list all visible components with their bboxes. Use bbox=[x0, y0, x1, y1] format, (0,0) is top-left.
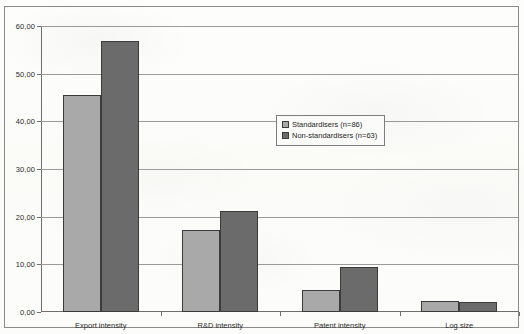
y-axis-tick-label: 0,00 bbox=[20, 308, 35, 317]
y-axis-tick bbox=[37, 312, 41, 313]
bar bbox=[459, 302, 497, 312]
y-axis-tick-label: 20,00 bbox=[16, 212, 35, 221]
legend-swatch-icon bbox=[282, 121, 289, 128]
y-axis-tick bbox=[37, 264, 41, 265]
bar bbox=[182, 230, 220, 312]
y-axis-tick-label: 10,00 bbox=[16, 260, 35, 269]
x-axis-tick bbox=[519, 312, 520, 316]
y-axis-tick bbox=[37, 121, 41, 122]
bar bbox=[340, 267, 378, 312]
y-axis-tick-label: 50,00 bbox=[16, 69, 35, 78]
chart-screenshot: 0,0010,0020,0030,0040,0050,0060,00 Expor… bbox=[0, 0, 524, 334]
y-axis-tick-label: 60,00 bbox=[16, 22, 35, 31]
gridline bbox=[41, 26, 519, 27]
x-axis-tick bbox=[400, 312, 401, 316]
x-axis-tick-label: Patent intensity bbox=[314, 321, 365, 330]
x-axis-tick bbox=[161, 312, 162, 316]
y-axis-tick bbox=[37, 217, 41, 218]
x-axis-tick bbox=[280, 312, 281, 316]
y-axis-tick bbox=[37, 169, 41, 170]
legend-label: Non-standardisers (n=63) bbox=[292, 131, 377, 140]
bar bbox=[101, 41, 139, 312]
chart-legend: Standardisers (n=86)Non-standardisers (n… bbox=[276, 115, 385, 146]
bar bbox=[421, 301, 459, 312]
bar bbox=[63, 95, 101, 312]
legend-item: Standardisers (n=86) bbox=[282, 119, 377, 130]
x-axis-tick-label: Export intensity bbox=[75, 321, 126, 330]
legend-item: Non-standardisers (n=63) bbox=[282, 130, 377, 141]
x-axis-tick-label: R&D intensity bbox=[198, 321, 243, 330]
chart-frame: 0,0010,0020,0030,0040,0050,0060,00 Expor… bbox=[4, 6, 519, 328]
y-axis-tick-label: 40,00 bbox=[16, 117, 35, 126]
bar bbox=[302, 290, 340, 312]
x-axis-tick-label: Log size bbox=[445, 321, 473, 330]
legend-swatch-icon bbox=[282, 132, 289, 139]
legend-label: Standardisers (n=86) bbox=[292, 120, 362, 129]
y-axis-tick bbox=[37, 26, 41, 27]
bar bbox=[220, 211, 258, 312]
y-axis-tick bbox=[37, 74, 41, 75]
plot-area: 0,0010,0020,0030,0040,0050,0060,00 Expor… bbox=[41, 26, 519, 312]
y-axis-tick-label: 30,00 bbox=[16, 165, 35, 174]
